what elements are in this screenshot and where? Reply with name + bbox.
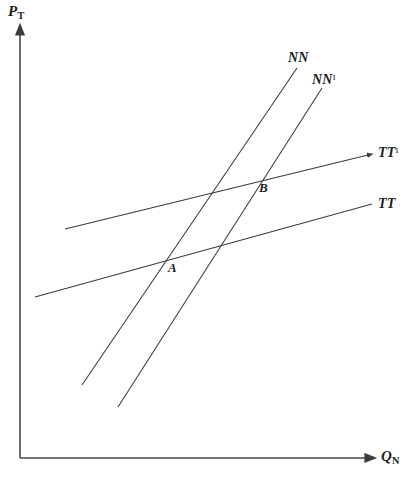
curve-label-tt: TT [378,196,396,211]
point-label-a: A [168,261,177,274]
curve-nn [82,68,297,385]
economics-diagram: PT QN NN NNı TTı TT A B [0,0,418,479]
curve-nn-prime [118,88,322,407]
diagram-canvas [0,0,418,479]
x-axis-label: QN [381,449,399,466]
curve-label-nn: NN [288,50,309,65]
curve-tt [35,204,372,297]
point-label-b: B [259,181,268,194]
y-axis-label: PT [8,4,24,21]
curve-label-nn-prime: NNı [312,72,336,87]
curve-label-tt-prime: TTı [378,145,399,160]
